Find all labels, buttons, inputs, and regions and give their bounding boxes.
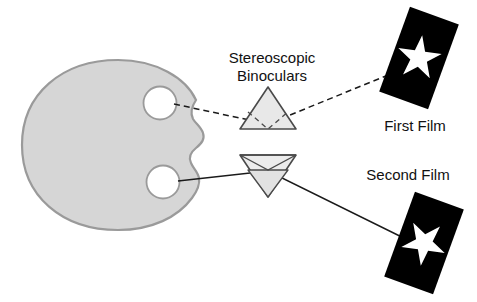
second-film-group: [379, 190, 466, 295]
viewer-head-group: [22, 60, 204, 230]
second-film-label: Second Film: [366, 166, 449, 183]
upper-prism-triangle-group: [240, 87, 296, 129]
lower-eye: [147, 166, 180, 199]
binoculars-label-line2: Binoculars: [237, 67, 307, 84]
stereoscopic-binoculars-diagram: Stereoscopic Binoculars First Film Secon…: [0, 0, 477, 302]
first-film-label: First Film: [384, 117, 446, 134]
lower-prism-inner-triangle: [248, 170, 288, 197]
lower-prism-triangle-group: [240, 155, 296, 197]
upper-prism-triangle: [240, 87, 296, 129]
binoculars-label-line1: Stereoscopic: [229, 49, 316, 66]
upper-eye: [144, 87, 177, 120]
diagram-canvas: Stereoscopic Binoculars First Film Secon…: [0, 0, 477, 302]
viewer-head-outline: [22, 60, 204, 230]
first-film-group: [379, 7, 459, 109]
